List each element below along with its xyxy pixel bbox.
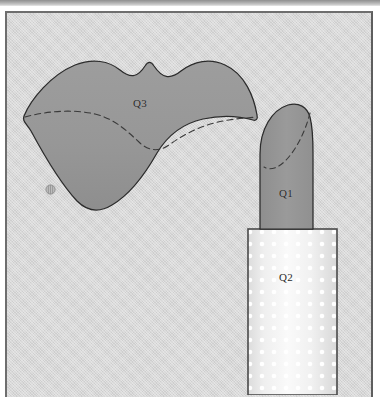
drawing-frame: Q3 Q1 Q2 <box>5 11 373 397</box>
tube-body-dots <box>248 229 337 395</box>
bullet-group <box>260 104 313 229</box>
figure-illustration <box>7 13 371 395</box>
label-tube-body: Q2 <box>279 271 293 283</box>
figure-root: Q3 Q1 Q2 <box>0 0 380 397</box>
hatched-circle-marker-icon <box>45 184 56 195</box>
bullet-outline <box>260 104 313 229</box>
lips-group <box>23 61 257 210</box>
tube-group <box>248 229 337 395</box>
label-lips: Q3 <box>133 97 147 109</box>
label-bullet-tip: Q1 <box>279 187 293 199</box>
lips-outline <box>23 61 257 210</box>
